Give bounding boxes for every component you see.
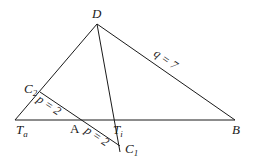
segment-label-q: q = 7 bbox=[151, 46, 181, 73]
label-D: D bbox=[91, 6, 102, 21]
label-C1: C1 bbox=[125, 141, 138, 158]
segment-label-p-upper: p = 2 bbox=[33, 91, 63, 118]
line-d-b bbox=[97, 24, 235, 120]
label-A: A bbox=[70, 121, 80, 136]
label-Ti: Ti bbox=[113, 122, 123, 139]
label-B: B bbox=[232, 122, 240, 137]
geometry-diagram: D C2 Ta A Ti B C1 q = 7 p = 2 p = 2 bbox=[0, 0, 253, 166]
segment-label-p-lower: p = 2 bbox=[81, 122, 111, 149]
label-Ta: Ta bbox=[16, 122, 28, 139]
label-C2: C2 bbox=[24, 81, 38, 98]
